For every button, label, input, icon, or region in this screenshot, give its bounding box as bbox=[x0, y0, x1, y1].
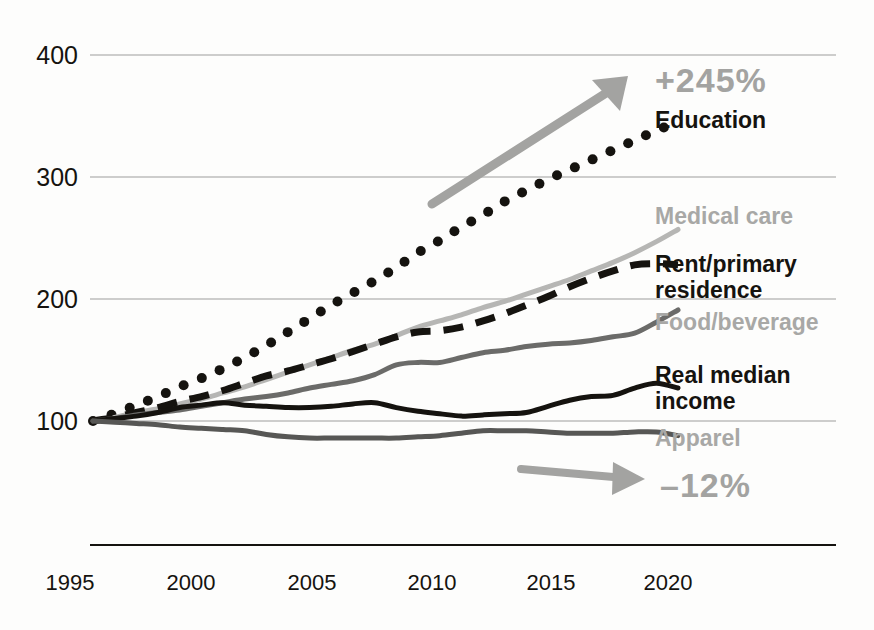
growth-arrow-icon bbox=[432, 76, 628, 204]
series-apparel bbox=[93, 421, 678, 438]
line-chart: 400 300 200 100 1995 2000 2005 2010 2015… bbox=[0, 0, 874, 630]
y-axis-labels: 400 300 200 100 bbox=[36, 41, 78, 435]
y-tick-100: 100 bbox=[36, 407, 78, 435]
x-tick-2015: 2015 bbox=[527, 570, 576, 595]
x-tick-2010: 2010 bbox=[408, 570, 457, 595]
chart-container: 400 300 200 100 1995 2000 2005 2010 2015… bbox=[0, 0, 874, 630]
x-tick-2020: 2020 bbox=[644, 570, 693, 595]
legend-item-apparel[interactable]: Apparel bbox=[655, 425, 741, 451]
decline-callout-label: –12% bbox=[660, 466, 751, 504]
x-tick-2000: 2000 bbox=[167, 570, 216, 595]
legend-item-rent-line2[interactable]: residence bbox=[655, 277, 762, 303]
legend-item-income-line2[interactable]: income bbox=[655, 388, 736, 414]
legend-item-medical-care[interactable]: Medical care bbox=[655, 203, 793, 229]
legend-item-income-line1[interactable]: Real median bbox=[655, 362, 791, 388]
x-tick-1995: 1995 bbox=[46, 570, 95, 595]
legend: Education Medical care Rent/primary resi… bbox=[655, 107, 819, 451]
series-medical-care bbox=[93, 229, 678, 421]
x-axis-labels: 1995 2000 2005 2010 2015 2020 bbox=[46, 570, 693, 595]
x-tick-2005: 2005 bbox=[288, 570, 337, 595]
series-layer bbox=[88, 123, 678, 439]
legend-item-food-beverage[interactable]: Food/beverage bbox=[655, 309, 819, 335]
legend-item-education[interactable]: Education bbox=[655, 107, 766, 133]
growth-callout-label: +245% bbox=[655, 61, 767, 99]
y-tick-300: 300 bbox=[36, 163, 78, 191]
legend-item-rent-line1[interactable]: Rent/primary bbox=[655, 251, 797, 277]
y-tick-200: 200 bbox=[36, 285, 78, 313]
decline-arrow-icon bbox=[521, 462, 645, 495]
y-tick-400: 400 bbox=[36, 41, 78, 69]
